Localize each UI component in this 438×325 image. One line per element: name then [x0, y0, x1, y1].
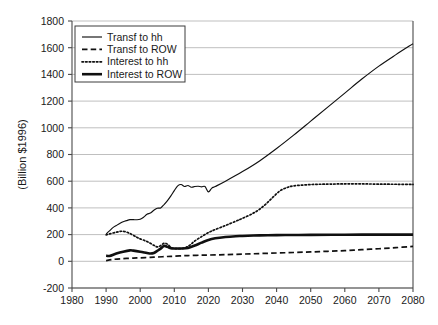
y-tick-label: 1000 [41, 122, 65, 134]
x-tick-label: 2030 [231, 294, 255, 306]
y-tick-label: 0 [58, 255, 64, 267]
y-tick-label: 800 [46, 148, 64, 160]
y-tick-label: 1800 [41, 15, 65, 27]
x-tick-label: 2080 [401, 294, 425, 306]
x-tick-label: 1980 [60, 294, 84, 306]
x-tick-label: 2040 [265, 294, 289, 306]
y-tick-label: 1400 [41, 68, 65, 80]
chart-container: -200020040060080010001200140016001800 19… [0, 0, 438, 325]
x-tick-label: 1990 [94, 294, 118, 306]
chart-legend: Transf to hhTransf to ROWInterest to hhI… [75, 26, 185, 82]
series-line-3 [106, 235, 413, 256]
y-axis-title: (Billion $1996) [16, 119, 28, 189]
y-tick-label: -200 [43, 282, 64, 294]
x-tick-label: 2050 [299, 294, 323, 306]
y-tick-label: 600 [46, 175, 64, 187]
x-tick-label: 2070 [367, 294, 391, 306]
y-tick-label: 200 [46, 228, 64, 240]
y-axis-label: (Billion $1996) [16, 119, 28, 189]
x-tick-label: 2060 [333, 294, 357, 306]
line-chart: -200020040060080010001200140016001800 19… [0, 0, 438, 325]
y-tick-label: 1200 [41, 95, 65, 107]
x-tick-labels: 1980199020002010202020302040205020602070… [60, 294, 425, 306]
legend-label-0: Transf to hh [107, 31, 163, 43]
y-tick-labels: -200020040060080010001200140016001800 [41, 15, 65, 294]
legend-label-2: Interest to hh [107, 55, 168, 67]
legend-label-1: Transf to ROW [107, 43, 177, 55]
series-line-2 [106, 184, 413, 249]
y-tick-label: 400 [46, 202, 64, 214]
x-tick-label: 2000 [129, 294, 153, 306]
legend-label-3: Interest to ROW [107, 68, 182, 80]
x-tick-label: 2010 [163, 294, 187, 306]
y-tick-label: 1600 [41, 42, 65, 54]
x-tick-label: 2020 [197, 294, 221, 306]
